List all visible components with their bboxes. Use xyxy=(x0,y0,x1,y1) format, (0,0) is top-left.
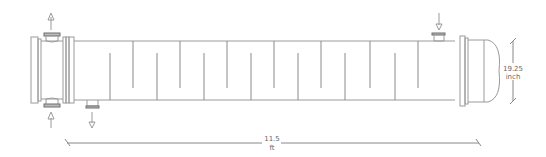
diameter-unit: inch xyxy=(506,73,521,81)
tube-inlet-nozzle xyxy=(44,98,60,128)
shell-body xyxy=(74,41,455,100)
tube-outlet-nozzle xyxy=(44,13,60,42)
left-channel-flange xyxy=(31,37,74,103)
arrow-up-icon xyxy=(48,112,54,119)
right-floating-head xyxy=(460,36,500,106)
shell-outlet-nozzle xyxy=(86,100,99,128)
baffles xyxy=(110,41,418,100)
heat-exchanger-diagram: 19.25 inch 11.5 ft xyxy=(0,0,546,157)
diameter-value: 19.25 xyxy=(503,65,523,73)
length-unit: ft xyxy=(269,144,274,152)
shell-inlet-nozzle xyxy=(432,13,445,41)
length-value: 11.5 xyxy=(264,135,280,143)
